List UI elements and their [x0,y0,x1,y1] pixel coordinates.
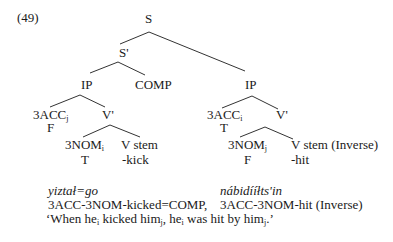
branch-right-vbar-subj [240,127,265,137]
branch-sbar-comp [118,62,145,75]
feature-right-subject: F [244,153,251,167]
feature-left-subject: T [81,153,89,167]
branch-s-right-ip [149,32,245,71]
branch-s-sbar [120,32,149,44]
gloss-right-morph: 3ACC-3NOM-hit (Inverse) [220,198,363,212]
node-right-vbar: V' [276,108,288,122]
branch-left-ip-spec [50,95,80,107]
branch-right-vbar-verb [265,127,293,139]
branch-left-vbar-verb [110,125,140,137]
node-s-bar: S' [119,46,129,60]
gloss-right-word: nábidííłts'in [220,184,282,198]
node-right-subject: 3NOMj [228,138,267,152]
node-left-verb: V stem [121,138,158,152]
node-comp: COMP [135,78,172,92]
gloss-left-verb: -kick [122,153,149,167]
branch-right-ip-vbar [252,96,278,109]
gloss-left-word: yiztał=go [48,184,98,198]
node-left-ip: IP [81,78,93,92]
node-s: S [145,12,152,26]
branch-left-ip-vbar [80,95,105,107]
node-left-vbar: V' [102,108,114,122]
gloss-right-verb: -hit [291,153,309,167]
node-left-subject: 3NOMi [65,138,104,152]
branch-sbar-ip [90,62,118,73]
example-number: (49) [17,11,39,25]
feature-left-spec: F [47,121,54,135]
branch-left-vbar-subj [83,125,110,137]
node-right-ip: IP [245,78,257,92]
feature-right-spec: T [220,121,228,135]
gloss-left-morph: 3ACC-3NOM-kicked=COMP, [48,198,207,212]
node-right-verb: V stem (Inverse) [291,138,378,152]
gloss-translation: ‘When hei kicked himj, hei was hit by hi… [46,212,274,226]
